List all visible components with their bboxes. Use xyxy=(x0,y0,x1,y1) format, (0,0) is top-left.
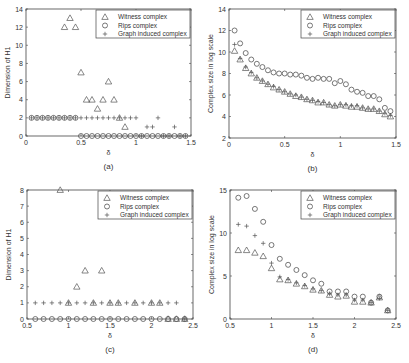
plus-marker xyxy=(112,116,116,120)
y-axis-label: Complex size in log scale xyxy=(208,215,216,294)
circle-marker xyxy=(261,219,266,224)
triangle-marker xyxy=(99,267,105,273)
legend-label: Graph induced complex xyxy=(323,30,392,38)
plus-marker xyxy=(50,301,54,305)
circle-marker xyxy=(319,281,324,286)
x-axis-label: δ xyxy=(311,151,315,158)
chart-panel-a: 00.511.502468101214δDimension of H1(a)Wi… xyxy=(4,6,196,172)
x-tick-label: 2.5 xyxy=(391,322,401,329)
plus-marker xyxy=(145,125,149,129)
y-tick-label: 8 xyxy=(20,187,24,194)
y-tick-label: 8 xyxy=(19,60,23,67)
x-tick-label: 1 xyxy=(270,322,274,329)
triangle-marker xyxy=(231,48,237,54)
plus-marker xyxy=(156,116,160,120)
circle-marker xyxy=(377,97,382,102)
circle-marker xyxy=(293,72,298,77)
y-tick-label: 12 xyxy=(218,27,226,34)
plus-marker xyxy=(166,301,170,305)
plus-marker xyxy=(95,116,99,120)
y-tick-label: 5 xyxy=(223,273,227,280)
y-axis-label: Dimension of H1 xyxy=(5,229,12,281)
plus-marker xyxy=(294,281,298,285)
y-tick-label: 4 xyxy=(222,113,226,120)
circle-marker xyxy=(327,76,332,81)
plus-marker xyxy=(355,104,359,108)
plus-marker xyxy=(66,301,70,305)
plus-marker xyxy=(305,97,309,101)
plus-marker xyxy=(310,98,314,102)
panel-caption: (d) xyxy=(308,345,318,354)
y-tick-label: 3 xyxy=(20,267,24,274)
circle-marker xyxy=(252,206,257,211)
circle-marker xyxy=(343,82,348,87)
legend: Witness complexRips complexGraph induced… xyxy=(98,191,192,219)
plus-marker xyxy=(249,70,253,74)
circle-marker xyxy=(277,71,282,76)
series-graph-induced-complex xyxy=(236,222,390,312)
circle-marker xyxy=(321,76,326,81)
legend-label: Rips complex xyxy=(323,22,363,30)
circle-marker xyxy=(371,94,376,99)
legend-label: Witness complex xyxy=(118,13,168,21)
plus-marker xyxy=(255,76,259,80)
x-tick-label: 1 xyxy=(338,141,342,148)
legend-label: Rips complex xyxy=(118,22,158,30)
circle-marker xyxy=(244,194,249,199)
triangle-marker xyxy=(78,69,84,75)
triangle-marker xyxy=(260,253,266,259)
triangle-marker xyxy=(111,97,117,103)
triangle-marker xyxy=(67,15,73,21)
panel-caption: (a) xyxy=(104,162,114,171)
circle-marker xyxy=(265,68,270,73)
circle-marker xyxy=(288,72,293,77)
plus-marker xyxy=(269,261,273,265)
triangle-marker xyxy=(82,267,88,273)
y-tick-label: 1 xyxy=(20,299,24,306)
series-graph-induced-complex xyxy=(29,116,187,139)
triangle-marker xyxy=(268,265,274,271)
legend-label: Graph induced complex xyxy=(120,211,189,219)
x-tick-label: 2 xyxy=(353,322,357,329)
triangle-marker xyxy=(74,284,80,290)
legend-label: Graph induced complex xyxy=(118,30,187,38)
circle-marker xyxy=(299,73,304,78)
plus-marker xyxy=(327,292,331,296)
legend-label: Witness complex xyxy=(323,13,373,21)
circle-marker xyxy=(366,94,371,99)
y-tick-label: 10 xyxy=(219,230,227,237)
circle-marker xyxy=(310,76,315,81)
circle-marker xyxy=(249,57,254,62)
plus-marker xyxy=(236,222,240,226)
y-tick-label: 0 xyxy=(20,316,24,323)
circle-marker xyxy=(338,79,343,84)
circle-marker xyxy=(236,195,241,200)
circle-marker xyxy=(294,267,299,272)
circle-marker xyxy=(254,61,259,66)
plus-marker xyxy=(372,107,376,111)
plus-marker xyxy=(158,301,162,305)
y-tick-label: 12 xyxy=(15,24,23,31)
plus-marker xyxy=(260,79,264,83)
figure: 00.511.502468101214δDimension of H1(a)Wi… xyxy=(0,0,409,363)
chart-panel-d: 0.511.522.5051015δComplex size in log sc… xyxy=(208,187,401,355)
plus-marker xyxy=(124,301,128,305)
plus-marker xyxy=(100,301,104,305)
plus-marker xyxy=(299,95,303,99)
plus-marker xyxy=(83,301,87,305)
plus-marker xyxy=(232,42,236,46)
plus-marker xyxy=(150,125,154,129)
y-tick-label: 2 xyxy=(222,135,226,142)
plus-marker xyxy=(319,288,323,292)
x-axis-label: δ xyxy=(107,149,111,156)
plus-marker xyxy=(282,90,286,94)
y-tick-label: 0 xyxy=(223,316,227,323)
y-tick-label: 2 xyxy=(19,114,23,121)
plus-marker xyxy=(338,102,342,106)
x-tick-label: 0.5 xyxy=(76,139,86,146)
y-tick-label: 15 xyxy=(219,187,227,194)
triangle-marker xyxy=(100,97,106,103)
plus-marker xyxy=(266,82,270,86)
plus-marker xyxy=(303,283,307,287)
x-tick-label: 2 xyxy=(150,322,154,329)
